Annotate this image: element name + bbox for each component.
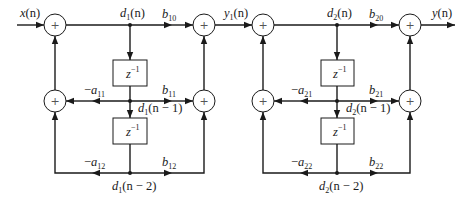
section-1: + + z−1 + [17,6,215,195]
label-input: x(n) [19,6,40,20]
svg-text:+: + [405,19,414,32]
adder-s2-output: + [399,14,421,36]
label-s2-b22: b22 [369,155,383,171]
label-s2-d2: d2(n − 2) [319,179,363,195]
adder-s2-feedback: + [252,90,274,112]
label-s1-b11: b11 [162,83,176,99]
label-s1-d0: d1(n) [120,6,145,22]
svg-text:+: + [50,19,59,32]
cascade-filter-diagram: + + z−1 + [0,0,471,198]
delay-s1-1: z−1 [113,60,147,86]
label-output: y(n) [430,6,452,20]
delay-s2-2: z−1 [321,118,354,144]
label-s1-d1: d1(n − 1) [138,101,182,117]
adder-s2-input: + [252,14,274,36]
svg-text:+: + [258,19,267,32]
label-s2-a22: −a22 [291,155,312,171]
adder-s1-output: + [193,14,215,36]
adder-s1-feedforward: + [193,90,215,112]
label-s2-d0: d2(n) [327,6,352,22]
adder-s1-feedback: + [44,90,66,112]
label-s2-d1: d2(n − 1) [346,101,390,117]
label-s2-b21: b21 [369,83,383,99]
svg-text:+: + [405,95,414,108]
svg-text:+: + [258,95,267,108]
label-s2-a21: −a21 [291,83,312,99]
adder-s2-feedforward: + [399,90,421,112]
label-s1-d2: d1(n − 2) [112,179,156,195]
svg-text:+: + [199,95,208,108]
label-y1: y1(n) [222,6,248,22]
label-s2-b20: b20 [369,7,383,23]
label-s1-a12: −a12 [84,155,105,171]
svg-text:+: + [50,95,59,108]
section-2: + + z−1 + + [252,6,455,195]
label-s1-b12: b12 [162,155,176,171]
svg-text:+: + [199,19,208,32]
delay-s1-2: z−1 [113,118,147,144]
adder-s1-input: + [44,14,66,36]
label-s1-b10: b10 [162,7,176,23]
delay-s2-1: z−1 [321,60,354,86]
label-s1-a11: −a11 [84,83,105,99]
